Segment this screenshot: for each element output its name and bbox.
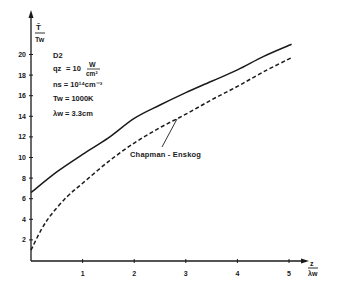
y-axis-label-denominator: Tw: [35, 36, 45, 43]
y-axis-label-numerator: T̄: [36, 23, 41, 32]
x-axis-label: z λw: [308, 260, 318, 277]
x-tick-label: 2: [132, 270, 136, 277]
param-qz-name: qz: [53, 64, 62, 73]
param-qz-unit-den: cm²: [86, 70, 98, 77]
x-axis-label-numerator: z: [310, 260, 314, 267]
y-tick-label: 4: [22, 216, 26, 223]
y-axis-arrow-icon: [29, 10, 34, 18]
x-axis-label-denominator: λw: [308, 270, 318, 277]
x-tick-label: 4: [235, 270, 239, 277]
axes: [29, 10, 310, 264]
parameter-block: D2 qz = 10 W cm² ns = 10¹⁴cm⁻³ Tw = 1000…: [53, 51, 103, 118]
y-tick-label: 2: [22, 236, 26, 243]
y-tick-label: 12: [18, 133, 26, 140]
x-tick-label: 3: [184, 270, 188, 277]
annotation-label: Chapman - Enskog: [130, 150, 201, 159]
y-tick-label: 16: [18, 92, 26, 99]
y-tick-label: 10: [18, 154, 26, 161]
y-tick-label: 18: [18, 72, 26, 79]
y-tick-label: 8: [22, 175, 26, 182]
param-gas: D2: [53, 51, 63, 60]
param-lambda-w: λw = 3.3cm: [53, 109, 93, 118]
chart-figure: 12345 2468101214161820 T̄ Tw z λw D2 qz …: [0, 0, 338, 291]
x-tick-label: 1: [81, 270, 85, 277]
y-tick-label: 14: [18, 113, 26, 120]
y-tick-label: 6: [22, 195, 26, 202]
param-tw: Tw = 1000K: [53, 94, 94, 103]
x-tick-label: 5: [287, 270, 291, 277]
y-tick-label: 20: [18, 51, 26, 58]
param-qz-unit-num: W: [89, 61, 96, 68]
param-ns: ns = 10¹⁴cm⁻³: [53, 80, 103, 89]
y-axis-label: T̄ Tw: [35, 23, 45, 43]
x-ticks: 12345: [81, 259, 291, 277]
x-axis-arrow-icon: [301, 259, 309, 264]
param-qz-eq: = 10: [66, 64, 81, 73]
